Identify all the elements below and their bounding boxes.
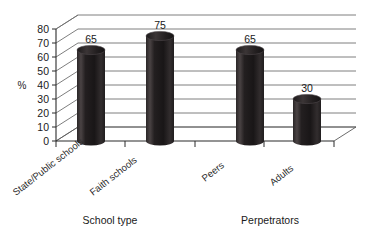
y-tick-label: 0 xyxy=(43,135,49,147)
x-category-label: Faith schools xyxy=(87,154,138,198)
y-tick-label: 30 xyxy=(37,93,49,105)
x-category-label: Peers xyxy=(199,159,226,183)
group-label-perpetrators: Perpetrators xyxy=(241,214,299,226)
bar-value-label: 75 xyxy=(154,19,166,31)
y-tick-label: 50 xyxy=(37,65,49,77)
bar-cylinder xyxy=(236,45,264,145)
y-tick-label: 80 xyxy=(37,23,49,35)
bar-cylinder xyxy=(293,94,321,145)
y-axis xyxy=(52,29,56,141)
chart-container: 80 70 60 50 40 30 20 10 0 % 65 xyxy=(0,0,367,252)
bar-cylinder xyxy=(146,31,174,145)
bar-cylinder xyxy=(77,45,105,145)
bar-chart-3d: 80 70 60 50 40 30 20 10 0 % 65 xyxy=(0,0,367,252)
y-tick-label: 20 xyxy=(37,107,49,119)
group-label-school-type: School type xyxy=(83,214,138,226)
y-axis-title: % xyxy=(18,80,27,91)
y-tick-label: 70 xyxy=(37,37,49,49)
y-tick-label: 10 xyxy=(37,121,49,133)
y-tick-labels: 80 70 60 50 40 30 20 10 0 xyxy=(37,23,49,147)
y-tick-label: 40 xyxy=(37,79,49,91)
bar-value-label: 65 xyxy=(244,33,256,45)
bar-value-label: 30 xyxy=(301,82,313,94)
y-tick-label: 60 xyxy=(37,51,49,63)
group-labels: School type Perpetrators xyxy=(83,214,299,226)
bar-value-label: 65 xyxy=(85,33,97,45)
x-category-label: Adults xyxy=(267,162,295,187)
